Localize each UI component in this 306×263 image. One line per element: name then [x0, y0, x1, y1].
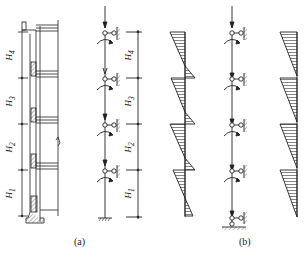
- joint-b-base: [222, 211, 247, 230]
- structural-diagram: [0, 0, 306, 263]
- joint-4: [97, 27, 120, 44]
- story-label-h4-model: H4: [123, 50, 136, 60]
- moment-diagram-a: [170, 32, 195, 217]
- joint-b-1: [224, 165, 247, 182]
- story-label-h2-model: H2: [123, 142, 136, 152]
- story-label-h3-building: H3: [4, 96, 17, 106]
- caption-a: (a): [74, 236, 85, 247]
- floor-beams: [36, 25, 58, 210]
- joint-b-3: [224, 73, 247, 90]
- story-label-h1-model: H1: [123, 188, 136, 198]
- building-elevation: [18, 20, 60, 223]
- story-label-h4-building: H4: [4, 50, 17, 60]
- joint-1: [97, 160, 120, 182]
- caption-b: (b): [239, 236, 251, 247]
- moment-diagram-b: [280, 32, 297, 217]
- joint-3: [97, 68, 120, 90]
- story-label-h1-building: H1: [4, 188, 17, 198]
- joint-b-2: [224, 119, 247, 136]
- joint-b-4: [224, 27, 247, 44]
- story-label-h3-model: H3: [123, 96, 136, 106]
- story-label-h2-building: H2: [4, 142, 17, 152]
- column-model-b: [222, 6, 247, 230]
- joint-2: [97, 114, 120, 136]
